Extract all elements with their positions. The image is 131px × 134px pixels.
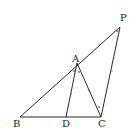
tick-mark-AP	[98, 43, 99, 44]
triangle-diagram: P A B D C	[0, 0, 131, 134]
label-C: C	[98, 118, 106, 129]
geometry-figure: P A B D C	[0, 0, 131, 134]
angle-mark-DAC	[78, 71, 80, 73]
label-A: A	[71, 53, 80, 64]
line-CP	[101, 27, 120, 117]
tick-mark-PC	[111, 70, 112, 71]
tick-mark-AC	[88, 89, 89, 90]
label-B: B	[13, 118, 20, 129]
line-BP	[20, 27, 120, 117]
label-P: P	[120, 12, 127, 23]
tick-mark-AD	[70, 93, 71, 94]
angle-mark-ACP	[98, 106, 100, 108]
angle-mark-BAD	[73, 70, 75, 72]
angle-mark-APC	[116, 30, 118, 32]
label-D: D	[62, 118, 70, 129]
